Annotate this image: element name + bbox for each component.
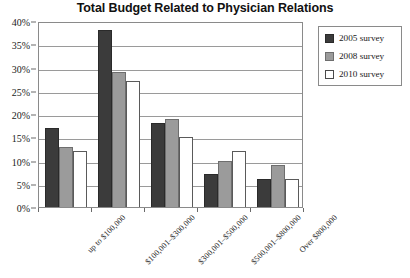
legend-item: 2008 survey — [325, 51, 396, 61]
y-axis-tick-label: 35% — [12, 40, 30, 51]
chart-figure: Total Budget Related to Physician Relati… — [0, 0, 410, 278]
bar — [165, 119, 179, 207]
bar-group — [145, 23, 198, 207]
y-axis-tick-mark — [31, 68, 36, 69]
bar — [179, 137, 193, 207]
legend-swatch-icon — [325, 34, 334, 43]
chart-title: Total Budget Related to Physician Relati… — [0, 1, 410, 15]
bar-group — [251, 23, 304, 207]
bar-group — [39, 23, 92, 207]
y-axis-tick-label: 40% — [12, 17, 30, 28]
x-axis-category-label: $300,001–$500,000 — [196, 213, 249, 266]
x-axis-tick-mark — [250, 208, 251, 212]
bar — [45, 128, 59, 207]
bar — [98, 30, 112, 207]
x-axis-tick-mark — [303, 208, 304, 212]
y-axis-tick-mark — [31, 208, 36, 209]
x-axis-tick-mark — [144, 208, 145, 212]
legend-label: 2008 survey — [339, 51, 384, 61]
legend-swatch-icon — [325, 52, 334, 61]
chart-legend: 2005 survey2008 survey2010 survey — [318, 26, 402, 86]
y-axis-tick-mark — [31, 22, 36, 23]
y-axis-tick-mark — [31, 161, 36, 162]
bar-group — [92, 23, 145, 207]
y-axis-tick-mark — [31, 45, 36, 46]
y-axis: 0%5%10%15%20%25%30%35%40% — [0, 22, 36, 208]
y-axis-tick-label: 0% — [17, 203, 30, 214]
bar — [73, 151, 87, 207]
bar — [257, 179, 271, 207]
x-axis-tick-mark — [38, 208, 39, 212]
legend-item: 2005 survey — [325, 33, 396, 43]
x-axis-category-label: Over $800,000 — [297, 213, 339, 255]
bar-group — [198, 23, 251, 207]
bar — [232, 151, 246, 207]
y-axis-tick-label: 30% — [12, 63, 30, 74]
bar — [112, 72, 126, 207]
x-axis-tick-mark — [91, 208, 92, 212]
y-axis-tick-mark — [31, 91, 36, 92]
x-axis-category-label: $500,001–$800,000 — [249, 213, 302, 266]
legend-label: 2010 survey — [339, 69, 384, 79]
bar — [218, 161, 232, 208]
y-axis-tick-mark — [31, 138, 36, 139]
y-axis-tick-label: 5% — [17, 179, 30, 190]
bar — [271, 165, 285, 207]
x-axis-tick-mark — [197, 208, 198, 212]
x-axis-category-label: $100,001–$300,000 — [143, 213, 196, 266]
plot-area — [38, 22, 303, 208]
bar — [151, 123, 165, 207]
legend-item: 2010 survey — [325, 69, 396, 79]
y-axis-tick-label: 25% — [12, 86, 30, 97]
legend-label: 2005 survey — [339, 33, 384, 43]
y-axis-tick-mark — [31, 115, 36, 116]
bar — [285, 179, 299, 207]
bar — [59, 147, 73, 207]
legend-swatch-icon — [325, 70, 334, 79]
y-axis-tick-label: 20% — [12, 110, 30, 121]
y-axis-tick-mark — [31, 184, 36, 185]
bar — [204, 174, 218, 207]
bar — [126, 81, 140, 207]
y-axis-tick-label: 15% — [12, 133, 30, 144]
y-axis-tick-label: 10% — [12, 156, 30, 167]
x-axis-category-label: up to $100,000 — [86, 213, 128, 255]
